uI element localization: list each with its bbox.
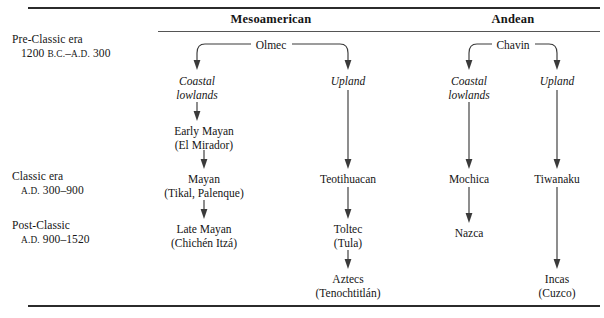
branch-andean-upland: Upland [540,74,575,88]
era-classic-line2: A.D. 300–900 [12,184,84,198]
era-label-classic: Classic era A.D. 300–900 [12,170,84,197]
arrowhead-teotihuacan-to-toltec [345,209,352,219]
node-mochica-line1: Mochica [449,173,489,185]
node-late-mayan-line2: (Chichén Itzá) [171,236,237,250]
node-mochica: Mochica [449,172,489,186]
node-incas-line2: (Cuzco) [538,286,575,300]
era-pre-classic-ad: A.D. [71,49,90,59]
node-late-mayan-line1: Late Mayan [176,223,231,235]
branch-andean-coastal-line2: lowlands [448,88,490,102]
era-classic-years: 300–900 [40,184,84,196]
node-aztecs: Aztecs (Tenochtitlán) [316,272,381,300]
branch-meso-coastal-line2: lowlands [176,88,218,102]
node-chavin-label: Chavin [496,39,529,51]
node-tiwanaku: Tiwanaku [534,172,580,186]
era-classic-line1: Classic era [12,170,63,182]
branch-meso-coastal-lowlands: Coastal lowlands [176,74,218,102]
arrowhead-mochica-to-nazca [466,213,473,223]
node-mayan-line1: Mayan [188,173,220,185]
node-chavin: Chavin [496,38,529,52]
group-header-andean: Andean [492,12,535,27]
connector-olmec-to-upland [292,44,348,62]
node-mayan: Mayan (Tikal, Palenque) [164,172,243,200]
era-pre-classic-line1: Pre-Classic era [12,33,83,45]
node-tiwanaku-line1: Tiwanaku [534,173,580,185]
node-toltec: Toltec (Tula) [334,222,363,250]
node-late-mayan: Late Mayan (Chichén Itzá) [171,222,237,250]
arrowhead-upland-to-teotihuacan [345,159,352,169]
arrowhead-toltec-to-aztecs [345,259,352,269]
era-post-classic-ad: A.D. [21,235,40,245]
branch-andean-coastal-line1: Coastal [451,75,487,87]
node-incas-line1: Incas [545,273,569,285]
era-pre-classic-bc: B.C. [47,49,65,59]
node-nazca: Nazca [455,226,484,240]
arrowhead-andean-coastal-to-mochica [466,159,473,169]
era-post-classic-years: 900–1520 [40,233,90,245]
node-olmec: Olmec [256,38,287,52]
branch-meso-coastal-line1: Coastal [179,75,215,87]
arrowhead-andean-upland-to-tiwanaku [554,159,561,169]
era-post-classic-line2: A.D. 900–1520 [12,233,90,247]
group-header-mesoamerican-label: Mesoamerican [231,12,312,26]
node-olmec-label: Olmec [256,39,287,51]
node-early-mayan: Early Mayan (El Mirador) [174,124,234,152]
branch-andean-upland-line1: Upland [540,75,575,87]
header-underrule [158,31,600,32]
node-teotihuacan: Teotihuacan [320,172,376,186]
era-label-pre-classic: Pre-Classic era 1200 B.C.–A.D. 300 [12,33,111,60]
era-classic-ad: A.D. [21,186,40,196]
arrowhead-chavin-to-coastal [466,60,473,70]
bottom-border-rule [28,305,600,307]
group-header-andean-label: Andean [492,12,535,26]
node-early-mayan-line1: Early Mayan [174,125,234,137]
node-toltec-line2: (Tula) [334,236,363,250]
arrowhead-early-mayan-to-mayan [201,159,208,169]
arrowhead-mayan-to-late-mayan [201,209,208,219]
group-header-mesoamerican: Mesoamerican [231,12,312,27]
era-pre-classic-year-end: 300 [90,47,111,59]
top-border-rule [28,7,600,9]
connector-chavin-to-coastal [469,44,492,62]
connector-chavin-to-upland [535,44,557,62]
node-incas: Incas (Cuzco) [538,272,575,300]
era-pre-classic-line2: 1200 B.C.–A.D. 300 [12,47,111,61]
era-pre-classic-year-start: 1200 [21,47,47,59]
arrowhead-coastal-to-early-mayan [194,111,201,121]
node-nazca-line1: Nazca [455,227,484,239]
connector-olmec-to-coastal [197,44,251,62]
node-mayan-line2: (Tikal, Palenque) [164,186,243,200]
branch-meso-upland-line1: Upland [331,75,366,87]
chronology-chart: Mesoamerican Andean Pre-Classic era 1200… [0,0,604,318]
node-teotihuacan-line1: Teotihuacan [320,173,376,185]
arrowhead-olmec-to-coastal [194,60,201,70]
arrowhead-chavin-to-upland [554,60,561,70]
node-toltec-line1: Toltec [334,223,363,235]
node-aztecs-line2: (Tenochtitlán) [316,286,381,300]
era-label-post-classic: Post-Classic A.D. 900–1520 [12,219,90,246]
node-early-mayan-line2: (El Mirador) [174,138,234,152]
arrowhead-tiwanaku-to-incas [554,259,561,269]
arrowhead-olmec-to-upland [345,60,352,70]
era-post-classic-line1: Post-Classic [12,219,70,231]
branch-andean-coastal-lowlands: Coastal lowlands [448,74,490,102]
branch-meso-upland: Upland [331,74,366,88]
node-aztecs-line1: Aztecs [332,273,363,285]
